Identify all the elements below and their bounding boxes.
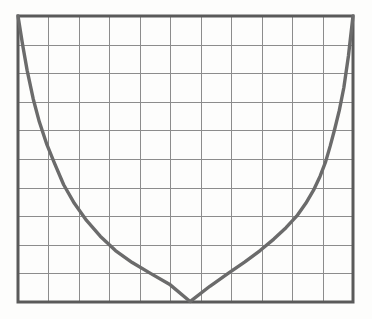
figure-root <box>0 0 372 319</box>
grid-plot-chart <box>0 0 372 319</box>
